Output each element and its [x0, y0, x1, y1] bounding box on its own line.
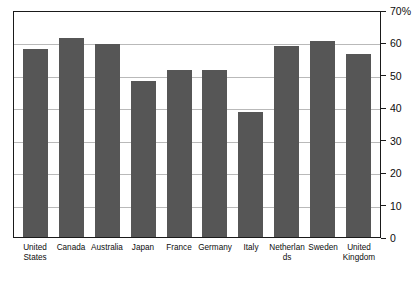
bar [59, 38, 84, 237]
y-axis-tick-label: 60 [390, 37, 402, 49]
x-axis-category-label: Germany [197, 243, 233, 263]
x-axis-category-label: Sweden [305, 243, 341, 263]
bar [23, 49, 48, 237]
y-axis-tick-60: 60 [381, 37, 420, 49]
x-axis-category-label: United States [17, 243, 53, 263]
y-axis-tick-label: 0 [390, 232, 396, 244]
x-axis-category-label: Australia [89, 243, 125, 263]
y-axis-tick-70: 70% [381, 5, 420, 17]
y-axis-tick-40: 40 [381, 102, 420, 114]
y-axis-tick-label: 40 [390, 102, 402, 114]
y-axis: 010203040506070% [381, 0, 420, 282]
y-axis-tick-0: 0 [381, 232, 420, 244]
y-axis-tick-label: 10 [390, 200, 402, 212]
x-axis-category-label: France [161, 243, 197, 263]
bar [238, 112, 263, 237]
bar-series [14, 12, 380, 237]
bar [274, 46, 299, 237]
bar [202, 70, 227, 237]
y-axis-tick-20: 20 [381, 167, 420, 179]
x-axis-category-label: Japan [125, 243, 161, 263]
y-axis-tick-30: 30 [381, 135, 420, 147]
x-axis: United StatesCanadaAustraliaJapanFranceG… [13, 243, 381, 263]
y-axis-tick-label: 50 [390, 70, 402, 82]
y-axis-tick-label: 30 [390, 135, 402, 147]
x-axis-category-label: Netherlands [269, 243, 305, 263]
y-axis-tick-label: 70% [390, 5, 411, 17]
tick-mark [381, 11, 386, 12]
tick-mark [381, 75, 386, 76]
bar [131, 81, 156, 237]
plot-area [13, 11, 381, 238]
tick-mark [381, 173, 386, 174]
bar [346, 54, 371, 237]
bar-chart-figure: 010203040506070% United StatesCanadaAust… [0, 0, 420, 282]
bar [310, 41, 335, 237]
x-axis-category-label: Italy [233, 243, 269, 263]
y-axis-tick-50: 50 [381, 70, 420, 82]
y-axis-tick-label: 20 [390, 167, 402, 179]
bar [95, 44, 120, 237]
tick-mark [381, 238, 386, 239]
tick-mark [381, 108, 386, 109]
tick-mark [381, 205, 386, 206]
bar [167, 70, 192, 237]
x-axis-category-label: United Kingdom [341, 243, 377, 263]
x-axis-category-label: Canada [53, 243, 89, 263]
y-axis-tick-10: 10 [381, 200, 420, 212]
tick-mark [381, 140, 386, 141]
tick-mark [381, 43, 386, 44]
